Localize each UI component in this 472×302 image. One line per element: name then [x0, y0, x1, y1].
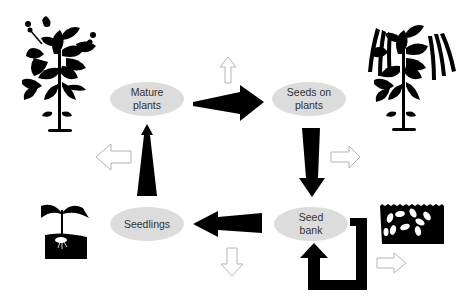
- life-cycle-diagram: Mature plants Seeds on plants Seedlings …: [0, 0, 472, 302]
- arrow-seedbank-to-seedlings: [193, 211, 262, 237]
- podded-plant-icon: [368, 25, 456, 131]
- node-label-line: Seeds on: [287, 86, 332, 98]
- loss-arrow-seeds-right: [331, 146, 360, 168]
- node-label-line: Seedlings: [124, 218, 170, 230]
- loss-arrow-mature-up: [220, 57, 236, 83]
- node-label-line: plants: [295, 99, 323, 111]
- loss-arrow-seedbank-right: [377, 253, 406, 273]
- arrow-seedlings-to-mature: [137, 124, 157, 196]
- sprouting-seedling-icon: [41, 205, 89, 259]
- node-label-line: Seed: [299, 211, 324, 223]
- loss-arrow-seedlings-down: [221, 248, 243, 276]
- node-label-line: bank: [300, 224, 324, 236]
- node-mature-plants: Mature plants: [110, 82, 184, 116]
- node-seedlings: Seedlings: [110, 207, 184, 241]
- node-seeds-on-plants: Seeds on plants: [272, 82, 346, 116]
- arrow-mature-to-seeds: [193, 85, 264, 121]
- node-label-line: Mature: [131, 86, 164, 98]
- buried-seeds-icon: [380, 204, 444, 244]
- arrow-seeds-to-seedbank: [299, 128, 325, 197]
- node-label-line: plants: [133, 99, 161, 111]
- loss-arrow-seedlings-left: [96, 144, 131, 170]
- flowering-plant-icon: [22, 16, 96, 132]
- node-seed-bank: Seed bank: [274, 207, 348, 241]
